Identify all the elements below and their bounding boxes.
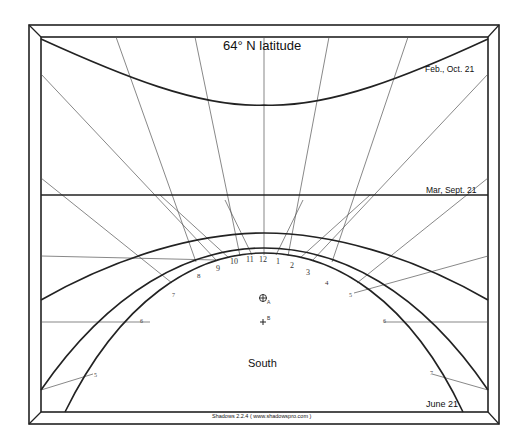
- hour-label: 5: [349, 292, 352, 298]
- hour-label: 2: [290, 261, 294, 270]
- marker-a-label: A: [267, 299, 270, 305]
- hour-label: 11: [246, 255, 254, 264]
- hour-label: 9: [216, 264, 220, 273]
- hour-label: 4: [325, 279, 329, 287]
- hour-label: 7: [430, 370, 433, 376]
- hour-label: 5: [94, 372, 97, 378]
- hour-label: 1: [276, 257, 280, 266]
- june-label: June 21: [426, 399, 458, 409]
- hour-label: 7: [172, 292, 175, 298]
- hour-label: 8: [197, 272, 201, 280]
- hour-label: 10: [230, 257, 238, 266]
- footer-credit: Shadows 2.2.4 ( www.shadowspro.com ): [212, 413, 311, 419]
- feb-oct-label: Feb., Oct. 21: [425, 64, 474, 74]
- hour-label: 12: [259, 255, 267, 264]
- diagram-title: 64° N latitude: [223, 38, 301, 53]
- hour-label: 6: [140, 318, 143, 324]
- south-label: South: [248, 357, 277, 369]
- mar-sept-label: Mar, Sept. 21: [426, 185, 477, 195]
- marker-b-label: B: [267, 315, 270, 321]
- hour-label: 6: [383, 318, 386, 324]
- hour-label: 3: [306, 268, 310, 277]
